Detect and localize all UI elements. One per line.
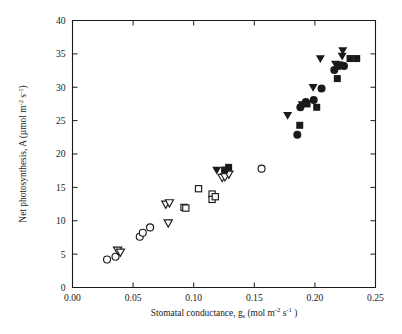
y-tick-label: 0: [61, 282, 66, 293]
series-open-triangle-down: [113, 171, 232, 256]
point-filled-circle: [310, 96, 318, 104]
point-filled-square: [304, 100, 311, 107]
point-filled-square: [347, 55, 354, 62]
y-tick-label: 30: [56, 82, 66, 93]
point-filled-circle: [293, 131, 301, 139]
point-filled-square: [296, 122, 303, 129]
point-open-square: [212, 194, 218, 200]
x-axis-title-text: Stomatal conductance, gs (mol m-2 s-1 ): [151, 306, 298, 319]
figure-panel: 0.000.050.100.150.200.25 051015202530354…: [0, 0, 402, 334]
x-axis-tick-labels: 0.000.050.100.150.200.25: [64, 292, 384, 303]
point-open-circle: [147, 224, 154, 231]
point-filled-triangle-down: [212, 167, 221, 175]
y-tick-label: 20: [56, 148, 66, 159]
point-open-triangle-down: [164, 220, 172, 227]
point-filled-triangle-down: [309, 84, 318, 92]
scatter-plot: 0.000.050.100.150.200.25 051015202530354…: [0, 0, 402, 334]
point-filled-square: [334, 75, 341, 82]
data-markers: [104, 47, 361, 263]
y-tick-label: 15: [56, 182, 66, 193]
y-tick-label: 40: [56, 15, 66, 26]
series-open-circle: [104, 165, 266, 263]
x-axis-title: Stomatal conductance, gs (mol m-2 s-1 ): [151, 306, 298, 319]
point-open-circle: [139, 229, 146, 236]
y-tick-label: 35: [56, 48, 66, 59]
y-tick-label: 5: [61, 249, 66, 260]
series-filled-triangle-down: [212, 47, 347, 174]
y-axis-tick-labels: 0510152025303540: [56, 15, 66, 293]
y-axis-title: Net photosynthesis, A (µmol m-2 s-1): [17, 85, 29, 222]
point-filled-circle: [318, 85, 326, 93]
y-axis-title-text: Net photosynthesis, A (µmol m-2 s-1): [17, 85, 29, 222]
point-filled-square: [221, 167, 228, 174]
point-filled-square: [313, 104, 320, 111]
point-filled-triangle-down: [316, 55, 325, 63]
point-open-square: [195, 186, 201, 192]
y-tick-label: 25: [56, 115, 66, 126]
point-open-circle: [258, 165, 265, 172]
point-filled-circle: [340, 62, 348, 70]
y-tick-label: 10: [56, 215, 66, 226]
series-open-square: [181, 186, 218, 212]
x-tick-label: 0.20: [307, 292, 324, 303]
x-tick-label: 0.05: [125, 292, 142, 303]
x-tick-label: 0.10: [185, 292, 202, 303]
x-tick-label: 0.00: [64, 292, 81, 303]
point-open-circle: [104, 256, 111, 263]
point-filled-triangle-down: [283, 112, 292, 120]
point-filled-triangle-down: [338, 53, 347, 61]
x-tick-label: 0.15: [246, 292, 263, 303]
x-tick-label: 0.25: [367, 292, 384, 303]
point-filled-square: [353, 55, 360, 62]
point-open-square: [183, 205, 189, 211]
